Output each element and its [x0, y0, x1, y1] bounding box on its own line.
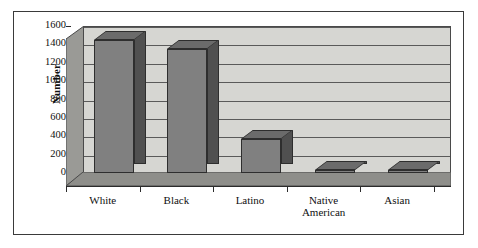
bar-latino — [241, 130, 293, 173]
y-tick-label: 1000 — [26, 75, 66, 86]
x-axis-label: Latino — [213, 194, 287, 206]
bar-white — [94, 31, 146, 173]
chart-card: Number 02004006008001000120014001600 Whi… — [13, 11, 464, 235]
bar-asian — [388, 161, 440, 173]
bar-native-american — [315, 161, 367, 173]
x-tick-mark — [360, 186, 361, 192]
bar-front-face — [167, 49, 207, 173]
y-tick-label: 0 — [26, 167, 66, 178]
bar-side-face — [207, 40, 219, 164]
y-tick-label: 1600 — [26, 20, 66, 31]
x-axis-label-line: American — [287, 206, 361, 218]
x-axis-label-line: Asian — [360, 194, 434, 206]
bar-top-face — [388, 161, 440, 170]
x-axis-label: Black — [140, 194, 214, 206]
x-axis-label-line: Latino — [213, 194, 287, 206]
x-tick-mark — [434, 186, 435, 192]
bar-black — [167, 40, 219, 173]
x-axis-label: White — [66, 194, 140, 206]
y-tick-label: 1200 — [26, 57, 66, 68]
y-tick-label: 1400 — [26, 38, 66, 49]
x-tick-mark — [140, 186, 141, 192]
x-tick-mark — [66, 186, 67, 192]
plot-area — [66, 26, 451, 186]
x-tick-mark — [213, 186, 214, 192]
y-tick-label: 200 — [26, 149, 66, 160]
x-axis-label-line: Native — [287, 194, 361, 206]
x-axis-label-line: White — [66, 194, 140, 206]
bar-chart: Number 02004006008001000120014001600 Whi… — [14, 12, 465, 236]
bar-front-face — [94, 40, 134, 173]
x-axis-line — [66, 186, 451, 187]
x-axis-label-line: Black — [140, 194, 214, 206]
bar-front-face — [241, 139, 281, 173]
bar-front-face — [388, 170, 428, 173]
y-tick-label: 600 — [26, 112, 66, 123]
floor-3d — [66, 172, 451, 186]
x-axis-label: Asian — [360, 194, 434, 206]
side-wall-3d — [66, 26, 84, 186]
bar-top-face — [315, 161, 367, 170]
y-axis-ticks: 02004006008001000120014001600 — [20, 12, 66, 236]
x-axis-label: NativeAmerican — [287, 194, 361, 218]
gridline — [84, 27, 450, 28]
y-tick-label: 800 — [26, 94, 66, 105]
bar-side-face — [134, 31, 146, 164]
x-axis — [66, 186, 451, 194]
bar-front-face — [315, 170, 355, 173]
x-tick-mark — [287, 186, 288, 192]
y-tick-label: 400 — [26, 130, 66, 141]
